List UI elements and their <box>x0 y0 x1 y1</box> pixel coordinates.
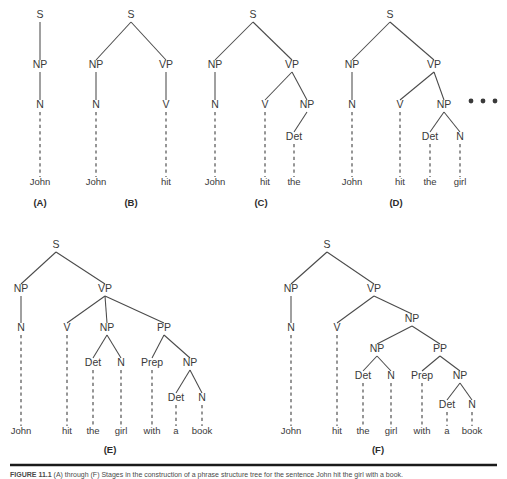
figure-caption: FIGURE 11.1 (A) through (F) Stages in th… <box>10 471 403 479</box>
tree-leaf-word: the <box>287 176 300 187</box>
tree-leaf-word: with <box>143 425 161 436</box>
panel-label-d: (D) <box>389 197 402 208</box>
tree-leaf-word: John <box>342 176 363 187</box>
tree-leaf-word: John <box>11 425 32 436</box>
tree-leaf-word: John <box>281 425 302 436</box>
tree-node-label: NP <box>208 58 223 70</box>
tree-node-label: Det <box>355 369 371 381</box>
tree-node-label: N <box>36 98 44 110</box>
tree-leaf-word: the <box>423 176 436 187</box>
tree-node-label: VP <box>367 282 381 294</box>
tree-node-label: NP <box>183 356 198 368</box>
tree-node-label: S <box>127 8 134 20</box>
figure-background <box>0 0 507 479</box>
tree-node-label: NP <box>453 369 468 381</box>
tree-node-label: Det <box>168 391 184 403</box>
tree-leaf-word: hit <box>62 425 72 436</box>
tree-node-label: N <box>17 321 25 333</box>
tree-leaf-word: girl <box>385 425 398 436</box>
panel-label-e: (E) <box>104 444 117 455</box>
tree-leaf-word: girl <box>454 176 467 187</box>
tree-node-label: N <box>92 98 100 110</box>
tree-node-label: N <box>211 98 219 110</box>
tree-node-label: NP <box>405 312 420 324</box>
tree-node-label: V <box>162 98 169 110</box>
tree-node-label: N <box>387 369 395 381</box>
tree-leaf-word: girl <box>115 425 128 436</box>
tree-node-label: NP <box>345 58 360 70</box>
tree-leaf-word: with <box>413 425 431 436</box>
figure-caption-text: FIGURE 11.1 (A) through (F) Stages in th… <box>10 471 403 479</box>
tree-leaf-word: a <box>444 425 450 436</box>
tree-node-label: NP <box>437 98 452 110</box>
tree-node-label: NP <box>370 342 385 354</box>
tree-node-label: N <box>468 398 476 410</box>
tree-node-label: PP <box>157 321 171 333</box>
tree-node-label: N <box>287 321 295 333</box>
tree-node-label: Det <box>439 398 455 410</box>
tree-node-label: Prep <box>411 369 433 381</box>
tree-node-label: PP <box>433 342 447 354</box>
tree-node-label: Prep <box>141 356 163 368</box>
tree-node-label: VP <box>98 282 112 294</box>
panel-label-c: (C) <box>254 197 267 208</box>
tree-leaf-word: John <box>205 176 226 187</box>
tree-node-label: V <box>261 98 268 110</box>
tree-node-label: VP <box>427 58 441 70</box>
panel-label-f: (F) <box>372 444 384 455</box>
tree-node-label: N <box>348 98 356 110</box>
tree-leaf-word: hit <box>332 425 342 436</box>
tree-node-label: S <box>249 8 256 20</box>
ellipsis-dot-icon <box>493 99 498 104</box>
tree-node-label: V <box>333 321 340 333</box>
tree-leaf-word: hit <box>260 176 270 187</box>
tree-leaf-word: John <box>30 176 51 187</box>
tree-node-label: NP <box>33 58 48 70</box>
phrase-structure-tree-figure: SNPNJohnSNPVPNVJohnhitSNPVPNVNPDetJohnhi… <box>0 0 507 479</box>
tree-node-label: Det <box>85 356 101 368</box>
panel-label-a: (A) <box>33 197 46 208</box>
tree-node-label: NP <box>300 98 315 110</box>
tree-leaf-word: book <box>192 425 213 436</box>
tree-node-label: NP <box>284 282 299 294</box>
tree-node-label: N <box>117 356 125 368</box>
tree-node-label: Det <box>286 130 302 142</box>
tree-leaf-word: the <box>356 425 369 436</box>
tree-node-label: S <box>386 8 393 20</box>
tree-node-label: S <box>323 238 330 250</box>
tree-leaf-word: John <box>86 176 107 187</box>
tree-node-label: N <box>198 391 206 403</box>
tree-node-label: VP <box>159 58 173 70</box>
tree-node-label: V <box>63 321 70 333</box>
tree-node-label: NP <box>14 282 29 294</box>
panel-label-b: (B) <box>124 197 137 208</box>
tree-leaf-word: the <box>86 425 99 436</box>
tree-node-label: S <box>52 238 59 250</box>
tree-node-label: N <box>456 130 464 142</box>
figure-container: SNPNJohnSNPVPNVJohnhitSNPVPNVNPDetJohnhi… <box>0 0 507 479</box>
tree-node-label: Det <box>422 130 438 142</box>
tree-node-label: NP <box>100 321 115 333</box>
tree-node-label: V <box>396 98 403 110</box>
tree-leaf-word: hit <box>161 176 171 187</box>
tree-leaf-word: book <box>462 425 483 436</box>
tree-node-label: NP <box>89 58 104 70</box>
ellipsis-dot-icon <box>469 99 474 104</box>
tree-node-label: VP <box>285 58 299 70</box>
ellipsis-dot-icon <box>481 99 486 104</box>
tree-leaf-word: a <box>173 425 179 436</box>
tree-node-label: S <box>36 8 43 20</box>
tree-leaf-word: hit <box>395 176 405 187</box>
